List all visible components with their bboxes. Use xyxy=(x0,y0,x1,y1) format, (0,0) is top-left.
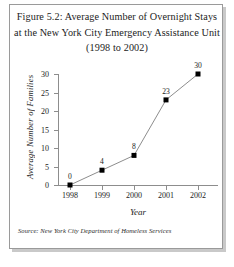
data-point-marker xyxy=(132,153,137,158)
figure-title-line-3: (1998 to 2002) xyxy=(14,40,220,56)
figure-title-line-2: at the New York City Emergency Assistanc… xyxy=(14,25,220,41)
data-point-label: 8 xyxy=(123,142,145,151)
data-point-marker xyxy=(196,72,201,77)
data-point-label: 30 xyxy=(187,61,209,70)
plot-region: Average Number of Families 051015202530 … xyxy=(10,61,223,221)
series-line xyxy=(70,74,198,185)
data-point-label: 4 xyxy=(91,157,113,166)
data-point-label: 0 xyxy=(59,172,81,181)
figure-title-line-1: Figure 5.2: Average Number of Overnight … xyxy=(14,9,220,25)
x-axis-title: Year xyxy=(58,207,218,217)
data-point-marker xyxy=(164,97,169,102)
data-point-label: 23 xyxy=(155,87,177,96)
figure-frame: Figure 5.2: Average Number of Overnight … xyxy=(9,4,223,249)
data-point-marker xyxy=(68,183,73,188)
data-point-marker xyxy=(100,168,105,173)
figure-title: Figure 5.2: Average Number of Overnight … xyxy=(14,9,220,56)
data-series xyxy=(10,61,223,221)
source-note: Source: New York City Department of Home… xyxy=(18,227,171,234)
series-markers xyxy=(68,72,201,188)
